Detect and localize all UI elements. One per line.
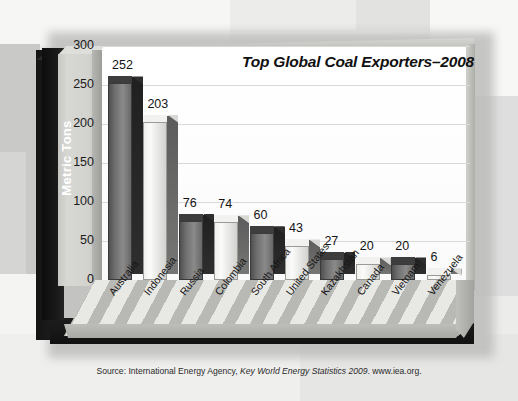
category-label: Vietnam (389, 260, 422, 298)
bg-panel-left-inner (0, 152, 26, 274)
source-suffix: . www.iea.org. (368, 366, 422, 376)
category-axis-labels: AustraliaIndonesiaRussiaColombiaSouth Af… (36, 18, 484, 348)
category-label: Indonesia (141, 254, 178, 297)
category-label: Canada (354, 261, 386, 297)
chart-figure: 300250200150100500 Metric Tons Top Globa… (36, 18, 484, 348)
category-label: Russia (177, 265, 206, 298)
source-prefix: Source: International Energy Agency, (96, 366, 240, 376)
category-label: Colombia (212, 255, 249, 297)
category-label: Australia (106, 258, 141, 298)
source-caption: Source: International Energy Agency, Key… (0, 366, 518, 376)
source-publication: Key World Energy Statistics 2009 (240, 366, 368, 376)
category-label: Venezuela (425, 251, 465, 297)
